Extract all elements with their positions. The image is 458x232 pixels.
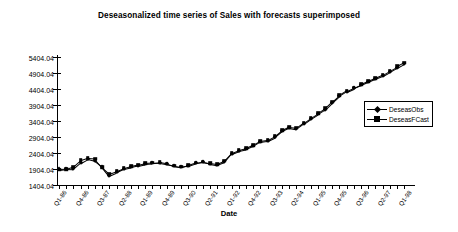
x-axis-tick-label: Q3-96 [354,189,370,207]
x-axis-tick-mark [210,185,211,189]
x-axis-tick-label: Q2-97 [376,189,392,207]
x-axis-tick-mark [275,185,276,189]
x-axis-tick-mark [304,185,305,189]
x-axis-tick-mark [152,185,153,189]
x-axis-tick-label: Q1-92 [225,189,241,207]
data-point [402,61,406,65]
x-axis-tick-label: Q2-91 [203,189,219,207]
data-point [100,165,104,169]
x-axis-tick-mark [375,185,376,189]
x-axis-tick-mark [66,185,67,189]
x-axis-tick-mark [383,185,384,189]
data-point [359,83,363,87]
x-axis-tick-mark [167,185,168,189]
x-axis-tick-label: Q3-90 [182,189,198,207]
data-point [381,73,385,77]
data-point [316,111,320,115]
data-point [230,151,234,155]
data-point [259,139,263,143]
x-axis-tick-mark [354,185,355,189]
x-axis-tick-mark [325,185,326,189]
x-axis-tick-mark [318,185,319,189]
data-point [302,121,306,125]
data-point [165,162,169,166]
legend-label: DeseasFCast [387,116,429,123]
data-point [72,165,76,169]
x-axis-tick-mark [289,185,290,189]
square-marker-icon [367,115,387,124]
data-point [64,167,68,171]
x-axis-tick-mark [102,185,103,189]
x-axis-tick-label: Q4-95 [333,189,349,207]
x-axis-tick-mark [73,185,74,189]
x-axis-tick-mark [160,185,161,189]
data-point [323,107,327,111]
x-axis-tick-mark [224,185,225,189]
x-axis-tick-mark [253,185,254,189]
x-axis-tick-mark [188,185,189,189]
x-axis-tick-mark [397,185,398,189]
data-point [244,147,248,151]
data-point [172,164,176,168]
data-point [79,158,83,162]
data-point [251,143,255,147]
x-axis-tick-label: Q4-89 [160,189,176,207]
x-axis-tick-mark [268,185,269,189]
x-axis-tick-mark [332,185,333,189]
x-axis-tick-label: Q2-88 [117,189,133,207]
x-axis-tick-mark [81,185,82,189]
data-point [187,163,191,167]
x-axis-tick-mark [246,185,247,189]
data-point [122,166,126,170]
legend-item-deseasfcast: DeseasFCast [367,114,429,124]
x-axis-tick-mark [203,185,204,189]
x-axis-tick-label: Q1-98 [397,189,413,207]
data-point [201,160,205,164]
x-axis-tick-mark [88,185,89,189]
data-point [266,138,270,142]
data-point [330,100,334,104]
data-point [144,161,148,165]
data-point [208,161,212,165]
data-point [374,76,378,80]
x-axis-tick-mark [232,185,233,189]
x-axis-tick-mark [347,185,348,189]
x-axis-tick-mark [217,185,218,189]
data-point [295,126,299,130]
x-axis-tick-mark [174,185,175,189]
x-axis-tick-label: Q1-95 [311,189,327,207]
data-point [194,161,198,165]
chart-title: Deseasonalized time series of Sales with… [0,11,458,20]
data-point [115,169,119,173]
data-point [237,148,241,152]
data-point [338,93,342,97]
data-point [273,134,277,138]
x-axis-tick-mark [361,185,362,189]
x-axis-tick-mark [181,185,182,189]
data-point [129,165,133,169]
x-axis-tick-mark [109,185,110,189]
x-axis-tick-label: Q1-89 [138,189,154,207]
data-point [388,69,392,73]
legend-label: DeseasObs [387,106,423,113]
x-axis-tick-label: Q3-93 [268,189,284,207]
x-axis-tick-mark [145,185,146,189]
x-axis-tick-mark [239,185,240,189]
x-axis-tick-mark [138,185,139,189]
data-point [215,162,219,166]
data-point [151,161,155,165]
data-point [223,159,227,163]
x-axis-tick-mark [95,185,96,189]
diamond-marker-icon [367,105,387,114]
data-point [395,65,399,69]
x-axis-tick-mark [404,185,405,189]
x-axis-tick-label: Q2-94 [289,189,305,207]
chart-container: Deseasonalized time series of Sales with… [0,0,458,232]
x-axis-tick-mark [368,185,369,189]
data-point [93,157,97,161]
x-axis-tick-mark [296,185,297,189]
x-axis-tick-label: Q4-92 [246,189,262,207]
plot-area [57,57,413,185]
data-point [86,156,90,160]
x-axis-tick-label: Q4-86 [74,189,90,207]
